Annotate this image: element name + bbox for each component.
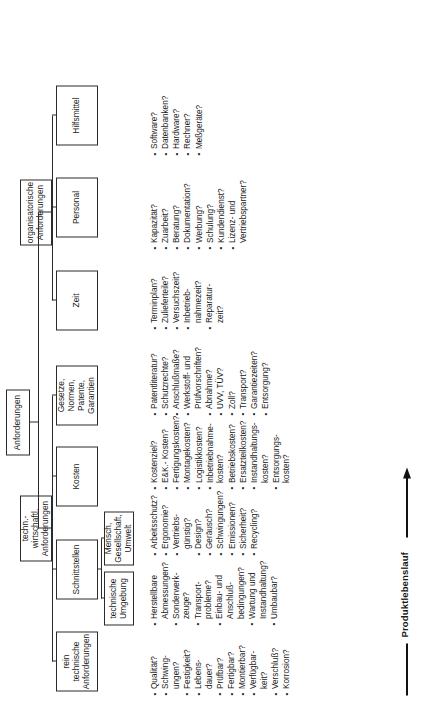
list-item: Montierbar? [238, 633, 249, 695]
list-item: Inbetriebnahme- kosten? [206, 421, 227, 489]
requirements-tree: Anforderungen rein technische Anforderun… [0, 0, 430, 711]
list-item: Kapazität? [150, 173, 161, 249]
list-item: Meßgeräte? [195, 89, 206, 155]
list-tech-environment: Herstellbare Abmessungen?Sonderwerk- zeu… [150, 561, 281, 625]
list-item: Kundendienst? [217, 173, 228, 249]
connector-root-bus [38, 212, 39, 528]
list-item: Zuarbeit? [161, 173, 172, 249]
node-root: Anforderungen [6, 389, 30, 455]
connector-org-to-personnel [52, 206, 56, 207]
list-item: Wartung und Instandhaltung? [248, 561, 269, 625]
list-item: Anschlußmaße? [172, 345, 183, 415]
connector-interfaces-bus [101, 538, 102, 598]
diagram-canvas: Anforderungen rein technische Anforderun… [0, 0, 430, 711]
list-item: Montagekosten? [183, 421, 194, 489]
list-resources: Software?Datenbanken?Hardware?Rechner?Me… [150, 89, 206, 155]
list-item: Fertigbar? [227, 633, 238, 695]
list-laws: Patentliteratur?Schutzrechte?Anschlußmaß… [150, 345, 272, 415]
list-item: Entsorgungs- kosten? [272, 421, 293, 489]
node-time: Zeit [56, 270, 98, 330]
list-item: Schwing- ungen? [161, 633, 182, 695]
list-item: Einbau- und Anschluß- bedingungen? [215, 561, 247, 625]
list-item: Datenbanken? [161, 89, 172, 155]
node-tech-environment: technische Umgebung [104, 571, 134, 625]
list-human-society-env: Arbeitsschutz?Ergonomie?Vertriebs- günst… [150, 493, 261, 555]
list-item: Entsorgung? [261, 345, 272, 415]
list-item: Lebens- dauer? [194, 633, 215, 695]
connector-interfaces-to-human [101, 537, 104, 538]
list-item: Korrosion? [282, 633, 293, 695]
list-item: Geräusch? [205, 493, 216, 555]
list-item: Sonderwerk- zeuge? [172, 561, 193, 625]
list-item: Transport- probleme? [194, 561, 215, 625]
connector-org-to-resources [52, 114, 56, 115]
node-personnel: Personal [56, 177, 98, 237]
list-item: Software? [150, 89, 161, 155]
list-item: Emissionen? [228, 493, 239, 555]
node-interfaces: Schnittstellen [56, 539, 98, 599]
connector-root-to-techecon [38, 527, 52, 528]
node-costs: Kosten [56, 446, 98, 506]
list-item: Herstellbare Abmessungen? [150, 561, 171, 625]
connector-techecon-to-costs [52, 475, 56, 476]
list-item: Verschluß? [271, 633, 282, 695]
connector-techecon-to-interfaces [52, 568, 56, 569]
axis-line-right [406, 477, 408, 537]
list-item: Fertigungskosten? [172, 421, 183, 489]
list-item: Transport? [239, 345, 250, 415]
list-item: Zoll? [228, 345, 239, 415]
list-item: Kostenziel? [150, 421, 161, 489]
list-item: Ersatzteilkosten? [239, 421, 250, 489]
list-item: Reparatur- zeit? [205, 263, 226, 329]
list-item: Instandhaltungs- kosten? [250, 421, 271, 489]
connector-org-to-time [52, 299, 56, 300]
connector-root-stem [30, 421, 38, 422]
list-item: Verfügbar- keit? [249, 633, 270, 695]
list-item: Lizenz- und Vertriebspartner? [228, 173, 249, 249]
list-costs: Kostenziel?E&K.- Kosten?Fertigungskosten… [150, 421, 294, 489]
list-item: Qualität? [150, 633, 161, 695]
node-human-society-env: Mensch, Gesellschaft, Umwelt [104, 511, 134, 565]
list-personnel: Kapazität?Zuarbeit?Beratung?Dokumentatio… [150, 173, 250, 249]
node-pure-technical: rein technische Anforderungen [56, 631, 98, 691]
list-pure-technical: Qualität?Schwing- ungen?Festigkeit?Leben… [150, 633, 294, 695]
list-item: Rechner? [183, 89, 194, 155]
list-item: Schutzrechte? [161, 345, 172, 415]
list-item: Patentliteratur? [150, 345, 161, 415]
list-item: Dokumentation? [183, 173, 194, 249]
list-item: Beratung? [172, 173, 183, 249]
list-item: Werkstoff- und Prüfvorschriften? [183, 345, 204, 415]
list-item: Abnahme? [205, 345, 216, 415]
list-item: UVV, TÜV? [216, 345, 227, 415]
connector-root-to-organisational [38, 211, 52, 212]
list-item: E&K.- Kosten? [161, 421, 172, 489]
list-item: Schwingungen? [216, 493, 227, 555]
list-item: Sicherheit? [239, 493, 250, 555]
list-item: Arbeitsschutz? [150, 493, 161, 555]
list-item: Logistikkosten? [195, 421, 206, 489]
list-item: Hardware? [172, 89, 183, 155]
connector-interfaces-to-techenv [101, 597, 104, 598]
axis-arrowhead-icon [403, 467, 411, 478]
list-item: Schulung? [206, 173, 217, 249]
list-item: Vertriebs- günstig? [172, 493, 193, 555]
list-item: Ergonomie? [161, 493, 172, 555]
list-item: Festigkeit? [183, 633, 194, 695]
connector-techecon-bus [52, 395, 53, 661]
connector-organisational-bus [52, 115, 53, 300]
list-item: Zulieferteile? [161, 263, 172, 329]
node-resources: Hilfsmittel [56, 85, 98, 145]
list-item: Inbetrieb- nahmezeit? [183, 263, 204, 329]
list-item: Werbung? [195, 173, 206, 249]
axis-label: Produktlebenslauf [399, 552, 410, 637]
connector-techecon-to-pure [52, 660, 56, 661]
list-item: Umbaubar? [270, 561, 281, 625]
axis-line-left [406, 643, 408, 695]
list-time: Terminplan?Zulieferteile?Versuchszeit?In… [150, 263, 227, 329]
list-item: Terminplan? [150, 263, 161, 329]
list-item: Garantiezeiten? [250, 345, 261, 415]
list-item: Versuchszeit? [172, 263, 183, 329]
list-item: Recycling? [250, 493, 261, 555]
list-item: Design? [194, 493, 205, 555]
list-item: Betriebskosten? [228, 421, 239, 489]
